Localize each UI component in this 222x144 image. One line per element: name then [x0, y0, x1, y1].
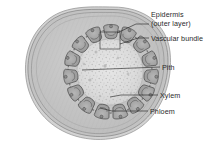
label-epidermis: Epidermis [151, 10, 184, 19]
stem-cross-section-figure: Epidermis (outer layer) Vascular bundle … [0, 0, 222, 144]
diagram-canvas: Epidermis (outer layer) Vascular bundle … [0, 0, 222, 144]
label-xylem: Xylem [160, 91, 180, 100]
label-epidermis-sub: (outer layer) [151, 19, 191, 28]
label-vascular-bundle: Vascular bundle [151, 34, 203, 43]
vascular-bundle [104, 24, 119, 38]
label-phloem: Phloem [150, 107, 175, 116]
label-pith: Pith [162, 63, 175, 72]
